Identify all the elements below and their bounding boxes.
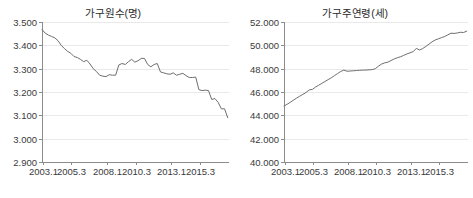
series-line-householder-age xyxy=(284,31,467,106)
y-axis-tick-label: 48.000 xyxy=(250,64,279,75)
y-axis-tick-label: 46.000 xyxy=(250,87,279,98)
x-axis-tick-label: 2005.3 xyxy=(57,166,86,177)
y-axis-tick-label: 3.300 xyxy=(13,64,37,75)
y-axis-tick-label: 3.100 xyxy=(13,110,37,121)
x-axis-tick-label: 2013.1 xyxy=(157,166,186,177)
y-axis-tick-label: 50.000 xyxy=(250,40,279,51)
y-axis-tick-label: 42.000 xyxy=(250,134,279,145)
x-axis-tick-label: 2008.1 xyxy=(93,166,122,177)
plot-area-householder-age: 40.00042.00044.00046.00048.00050.00052.0… xyxy=(236,0,473,198)
x-axis-tick-label: 2005.3 xyxy=(299,166,328,177)
x-axis-tick-label: 2010.3 xyxy=(122,166,151,177)
x-axis-tick-label: 2008.1 xyxy=(334,166,363,177)
chart-panel-householder-age: 가구주연령(세) 40.00042.00044.00046.00048.0005… xyxy=(236,0,473,198)
y-axis-tick-label: 44.000 xyxy=(250,110,279,121)
x-axis-tick-label: 2003.1 xyxy=(29,166,58,177)
y-axis-tick-label: 3.000 xyxy=(13,134,37,145)
y-axis-tick-label: 52.000 xyxy=(250,17,279,28)
x-axis-tick-label: 2013.1 xyxy=(397,166,426,177)
series-line-household-size xyxy=(42,29,228,117)
plot-area-household-size: 2.9003.0003.1003.2003.3003.4003.5002003.… xyxy=(0,0,236,198)
x-axis-tick-label: 2010.3 xyxy=(362,166,391,177)
x-axis-tick-label: 2015.3 xyxy=(186,166,215,177)
x-axis-tick-label: 2003.1 xyxy=(271,166,300,177)
y-axis-tick-label: 3.400 xyxy=(13,40,37,51)
y-axis-tick-label: 3.200 xyxy=(13,87,37,98)
chart-panel-household-size: 가구원수(명) 2.9003.0003.1003.2003.3003.4003.… xyxy=(0,0,236,198)
dual-line-chart-figure: 가구원수(명) 2.9003.0003.1003.2003.3003.4003.… xyxy=(0,0,473,198)
y-axis-tick-label: 3.500 xyxy=(13,17,37,28)
x-axis-tick-label: 2015.3 xyxy=(425,166,454,177)
